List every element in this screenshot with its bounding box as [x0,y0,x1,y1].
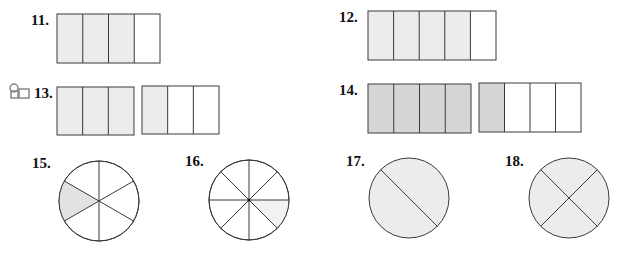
problem-12-rectangle [368,11,496,60]
problem-13-rectangles [57,86,219,135]
problem-14-rectangles [368,83,581,133]
fraction-figures [0,0,618,254]
problem-18-circle [529,158,609,238]
problem-11-rectangle [57,14,160,63]
problem-17-circle [369,158,449,238]
problem-15-circle [59,161,139,241]
problem-16-circle [209,160,289,240]
